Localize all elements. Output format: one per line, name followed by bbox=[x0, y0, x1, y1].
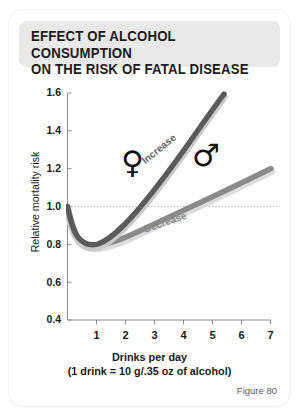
figure-caption: Figure 80 bbox=[237, 385, 277, 396]
figure-card: EFFECT OF ALCOHOL CONSUMPTION ON THE RIS… bbox=[9, 10, 290, 406]
increase-annotation: Increase bbox=[140, 132, 178, 166]
x-axis-ticks bbox=[97, 320, 271, 325]
chart-title-band: EFFECT OF ALCOHOL CONSUMPTION ON THE RIS… bbox=[19, 21, 280, 67]
x-axis-label-note: (1 drink = 10 g/.35 oz of alcohol) bbox=[19, 365, 280, 377]
female-symbol-icon: ♀ bbox=[121, 147, 144, 178]
x-tick-label: 1 bbox=[89, 329, 105, 341]
x-tick-label: 5 bbox=[205, 329, 221, 341]
x-tick-label: 4 bbox=[176, 329, 192, 341]
y-tick-label: 0.4 bbox=[35, 313, 61, 325]
y-tick-label: 1.6 bbox=[35, 86, 61, 98]
x-axis-label: Drinks per day bbox=[29, 351, 270, 363]
male-curve-shadow bbox=[68, 172, 272, 249]
male-curve bbox=[68, 169, 272, 246]
x-tick-label: 6 bbox=[234, 329, 250, 341]
male-symbol-icon: ♂ bbox=[192, 140, 220, 171]
y-tick-label: 0.6 bbox=[35, 276, 61, 288]
x-tick-label: 3 bbox=[147, 329, 163, 341]
x-tick-label: 7 bbox=[263, 329, 279, 341]
y-axis-label: Relative mortality risk bbox=[29, 132, 41, 272]
decrease-annotation: Decrease bbox=[142, 210, 188, 235]
page-title: EFFECT OF ALCOHOL CONSUMPTION ON THE RIS… bbox=[31, 28, 260, 78]
x-tick-label: 2 bbox=[118, 329, 134, 341]
y-axis-ticks bbox=[68, 93, 72, 320]
